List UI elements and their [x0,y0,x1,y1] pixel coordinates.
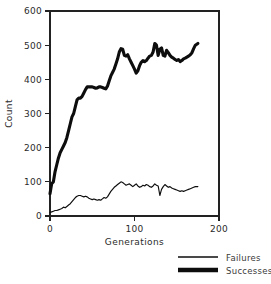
y-tick-label-300: 300 [24,109,42,119]
x-tick-label-200: 200 [210,224,228,234]
y-tick-label-600: 600 [24,6,42,16]
legend-label-failures: Failures [226,253,261,263]
y-axis-title: Count [4,99,14,128]
y-tick-label-100: 100 [24,177,42,187]
y-tick-label-0: 0 [36,211,42,221]
legend-label-successes: Successes [226,266,271,276]
chart-svg: 600 500 400 300 200 100 0 0 100 200 Gene… [0,0,271,284]
x-tick-label-100: 100 [125,224,143,234]
y-axis-ticks [45,11,50,216]
y-tick-label-400: 400 [24,75,42,85]
x-axis-title: Generations [105,237,164,247]
y-tick-label-200: 200 [24,143,42,153]
x-tick-label-0: 0 [47,224,53,234]
y-tick-label-500: 500 [24,41,42,51]
chart-legend: Failures Successes [178,253,271,276]
series-line-successes [50,43,198,193]
x-axis-ticks [50,216,219,221]
series-line-failures [50,182,198,213]
chart-container: 600 500 400 300 200 100 0 0 100 200 Gene… [0,0,271,284]
